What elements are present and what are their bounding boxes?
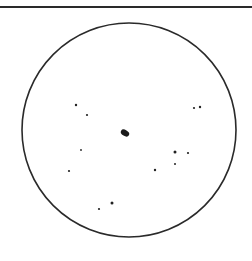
- central-object: [120, 128, 131, 138]
- star-dot: [154, 169, 156, 171]
- star-dot: [80, 149, 82, 151]
- stars-group: [68, 104, 201, 210]
- star-dot: [187, 152, 189, 154]
- star-field-diagram: [0, 0, 252, 261]
- star-dot: [111, 202, 114, 205]
- star-dot: [199, 106, 201, 108]
- star-dot: [75, 104, 77, 106]
- star-dot: [193, 107, 195, 109]
- star-dot: [86, 114, 88, 116]
- star-dot: [174, 163, 176, 165]
- star-dot: [68, 170, 70, 172]
- field-of-view-circle: [22, 23, 236, 237]
- star-dot: [174, 151, 177, 154]
- star-dot: [98, 208, 100, 210]
